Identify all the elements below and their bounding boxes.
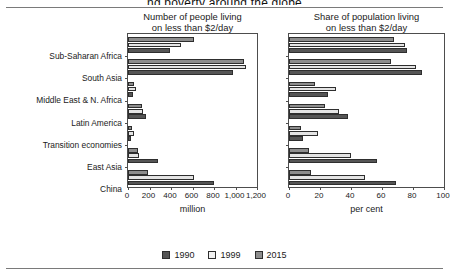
category-label-latin-america: Latin America bbox=[71, 118, 122, 128]
x-axis-tick bbox=[382, 187, 383, 190]
panel-0-x-axis-label: million bbox=[127, 204, 258, 214]
panel-1-plot-area bbox=[288, 33, 445, 188]
bar-2015-middle-east-n-africa bbox=[289, 82, 315, 87]
category-label-south-asia: South Asia bbox=[82, 73, 122, 83]
y-axis-tick bbox=[286, 56, 289, 57]
bar-2015-south-asia bbox=[128, 59, 244, 64]
bar-1990-south-asia bbox=[128, 70, 233, 75]
bar-1990-latin-america bbox=[128, 114, 146, 119]
bar-1990-china bbox=[289, 181, 396, 186]
legend-item-2015: 2015 bbox=[255, 250, 287, 260]
panel-0-plot-wrap: 02004006008001,0001,200 million bbox=[127, 33, 258, 188]
panel-1-title-line2: on less than $2/day bbox=[288, 23, 445, 34]
y-axis-tick bbox=[125, 56, 128, 57]
panel-1-tick-labels: 020406080100 bbox=[288, 191, 445, 203]
bar-2015-east-asia bbox=[128, 148, 138, 153]
panel-number-of-people: Number of people living on less than $2/… bbox=[127, 12, 258, 188]
x-axis-tick-label: 200 bbox=[142, 191, 155, 200]
bar-1999-east-asia bbox=[289, 153, 351, 158]
bar-2015-latin-america bbox=[128, 104, 142, 109]
x-axis-tick-label: 20 bbox=[315, 191, 324, 200]
x-axis-tick bbox=[444, 187, 445, 190]
y-axis-tick bbox=[286, 101, 289, 102]
panel-1-plot-wrap: 020406080100 per cent bbox=[288, 33, 445, 188]
legend-item-1999: 1999 bbox=[208, 250, 240, 260]
category-label-east-asia: East Asia bbox=[87, 162, 122, 172]
category-label-china: China bbox=[100, 184, 122, 194]
y-axis-tick bbox=[125, 101, 128, 102]
bar-1999-middle-east-n-africa bbox=[289, 87, 336, 92]
bar-2015-sub-saharan-africa bbox=[289, 37, 394, 42]
x-axis-tick-label: 800 bbox=[206, 191, 219, 200]
x-axis-tick-label: 100 bbox=[436, 191, 449, 200]
y-axis-tick bbox=[286, 78, 289, 79]
bar-1999-east-asia bbox=[128, 153, 139, 158]
x-axis-tick bbox=[236, 187, 237, 190]
bar-1990-middle-east-n-africa bbox=[289, 92, 328, 97]
x-axis-tick bbox=[351, 187, 352, 190]
y-axis-tick bbox=[125, 167, 128, 168]
bar-2015-south-asia bbox=[289, 59, 391, 64]
x-axis-tick bbox=[289, 187, 290, 190]
bar-1999-south-asia bbox=[289, 65, 416, 70]
bar-1990-middle-east-n-africa bbox=[128, 92, 133, 97]
panel-1-x-axis-label: per cent bbox=[288, 204, 445, 214]
bar-2015-latin-america bbox=[289, 104, 325, 109]
legend-swatch-icon-2015 bbox=[255, 251, 263, 259]
bar-1990-sub-saharan-africa bbox=[128, 48, 170, 53]
bar-1990-east-asia bbox=[128, 159, 158, 164]
y-axis-tick bbox=[125, 123, 128, 124]
x-axis-tick-label: 40 bbox=[346, 191, 355, 200]
bar-1999-latin-america bbox=[128, 109, 143, 114]
legend-label-2015: 2015 bbox=[267, 250, 287, 260]
category-label-sub-saharan-africa: Sub-Saharan Africa bbox=[49, 51, 122, 61]
figure-top-rule bbox=[6, 7, 443, 8]
y-axis-tick bbox=[286, 145, 289, 146]
legend-label-1990: 1990 bbox=[174, 250, 194, 260]
figure-title: ng poverty around the globe bbox=[0, 0, 449, 5]
x-axis-tick bbox=[214, 187, 215, 190]
category-label-transition-economies: Transition economies bbox=[43, 140, 122, 150]
category-label-middle-east-n-africa: Middle East & N. Africa bbox=[36, 95, 122, 105]
legend-swatch-icon-1999 bbox=[208, 251, 216, 259]
bar-1990-south-asia bbox=[289, 70, 422, 75]
bar-2015-sub-saharan-africa bbox=[128, 37, 194, 42]
panel-1-title: Share of population living on less than … bbox=[288, 12, 445, 33]
bar-1999-south-asia bbox=[128, 65, 246, 70]
x-axis-tick-label: 60 bbox=[377, 191, 386, 200]
chart-legend: 199019992015 bbox=[0, 250, 449, 260]
bar-2015-china bbox=[128, 170, 148, 175]
x-axis-tick-label: 400 bbox=[163, 191, 176, 200]
bar-1999-transition-economies bbox=[289, 131, 318, 136]
x-axis-tick-label: 0 bbox=[125, 191, 129, 200]
y-axis-tick bbox=[125, 145, 128, 146]
x-axis-tick bbox=[193, 187, 194, 190]
y-axis-tick bbox=[286, 123, 289, 124]
x-axis-tick-label: 1,200 bbox=[246, 191, 266, 200]
figure-bottom-rule bbox=[6, 268, 443, 269]
panel-1-title-line1: Share of population living bbox=[288, 12, 445, 23]
x-axis-tick-label: 0 bbox=[286, 191, 290, 200]
x-axis-tick-label: 600 bbox=[185, 191, 198, 200]
x-axis-tick bbox=[171, 187, 172, 190]
x-axis-tick bbox=[320, 187, 321, 190]
x-axis-tick-label: 1,000 bbox=[224, 191, 244, 200]
panel-0-title-line1: Number of people living bbox=[127, 12, 258, 23]
bar-1999-middle-east-n-africa bbox=[128, 87, 136, 92]
bar-1990-east-asia bbox=[289, 159, 377, 164]
bar-1999-china bbox=[289, 175, 365, 180]
legend-item-1990: 1990 bbox=[162, 250, 194, 260]
x-axis-tick-label: 80 bbox=[408, 191, 417, 200]
bar-1999-transition-economies bbox=[128, 131, 134, 136]
bar-1990-china bbox=[128, 181, 214, 186]
bar-1999-latin-america bbox=[289, 109, 339, 114]
bar-2015-transition-economies bbox=[289, 126, 301, 131]
bar-1999-china bbox=[128, 175, 194, 180]
y-axis-tick bbox=[125, 78, 128, 79]
bar-1999-sub-saharan-africa bbox=[289, 43, 405, 48]
bar-1999-sub-saharan-africa bbox=[128, 43, 181, 48]
bar-2015-middle-east-n-africa bbox=[128, 82, 134, 87]
x-axis-tick bbox=[257, 187, 258, 190]
panel-0-plot-area bbox=[127, 33, 258, 188]
